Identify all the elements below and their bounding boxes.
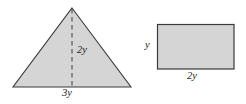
rectangle-height-label: y <box>145 40 150 51</box>
shaded-rectangle-shape <box>158 25 235 70</box>
rectangle-width-label: 2y <box>187 71 197 82</box>
triangle-base-label: 3y <box>62 88 72 99</box>
geometry-figure: 2y 3y y 2y <box>0 0 246 104</box>
triangle-height-label: 2y <box>77 45 87 56</box>
figure-shapes-svg <box>0 0 246 104</box>
